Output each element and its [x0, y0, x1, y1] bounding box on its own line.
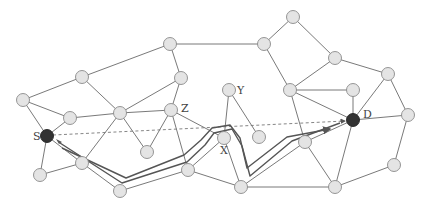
edge-n20-n22: [394, 115, 408, 165]
node-n8: [34, 169, 47, 182]
edge-n6-Z: [120, 110, 171, 113]
network-diagram: SZXYD: [0, 0, 426, 209]
edge-n7-Z: [147, 110, 171, 152]
edge-n9-n10: [82, 163, 120, 191]
node-n7: [141, 146, 154, 159]
node-S: [41, 130, 54, 143]
node-n5: [175, 72, 188, 85]
node-n3: [17, 94, 30, 107]
edge-n18-D: [290, 90, 353, 120]
node-X: [218, 132, 231, 145]
node-n1: [164, 38, 177, 51]
edge-n6-n7: [120, 113, 147, 152]
edge-n4-n6: [70, 113, 120, 118]
edge-Z-X: [171, 110, 224, 138]
label-Z: Z: [181, 102, 189, 115]
node-n23: [329, 181, 342, 194]
edge-n2-n1: [82, 44, 170, 77]
edge-n21-n23: [305, 142, 335, 187]
node-n6: [114, 107, 127, 120]
node-n14: [287, 11, 300, 24]
edge-n11-n13: [188, 170, 241, 187]
node-n17: [382, 68, 395, 81]
node-n18: [284, 84, 297, 97]
edge-n15-n18: [264, 44, 290, 90]
node-n11: [182, 164, 195, 177]
label-D: D: [363, 108, 372, 121]
network-graph-canvas: SZXYD: [0, 0, 426, 209]
node-n22: [388, 159, 401, 172]
edge-D-n21: [305, 120, 353, 142]
node-Y: [223, 84, 236, 97]
node-Z: [165, 104, 178, 117]
node-D: [347, 114, 360, 127]
edge-n14-n16: [293, 17, 335, 58]
edge-n16-n17: [335, 58, 388, 74]
edge-n2-n6: [82, 77, 120, 113]
node-n16: [329, 52, 342, 65]
node-n4: [64, 112, 77, 125]
edge-n22-n23: [335, 165, 394, 187]
nodes-layer: [17, 11, 415, 198]
node-n13: [235, 181, 248, 194]
edge-n3-n2: [23, 77, 82, 100]
node-n12: [253, 131, 266, 144]
edge-n16-n18: [290, 58, 335, 90]
node-n15: [258, 38, 271, 51]
node-n2: [76, 71, 89, 84]
labels-layer: SZXYD: [33, 84, 372, 157]
label-Y: Y: [236, 84, 245, 97]
edge-D-n20: [353, 115, 408, 120]
edge-n6-n9: [82, 113, 120, 163]
edge-D-n23: [335, 120, 353, 187]
edge-n3-n4: [23, 100, 70, 118]
node-n20: [402, 109, 415, 122]
node-n10: [114, 185, 127, 198]
node-n19: [347, 84, 360, 97]
label-X: X: [220, 144, 228, 157]
edge-Z-n11: [171, 110, 188, 170]
node-n9: [76, 157, 89, 170]
node-n21: [299, 136, 312, 149]
route-layer: [56, 123, 340, 183]
label-S: S: [33, 130, 41, 143]
